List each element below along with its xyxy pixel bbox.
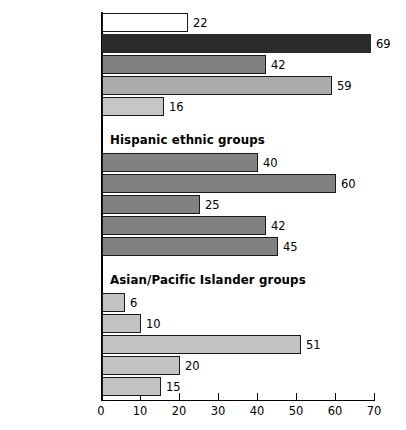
x-tick-label-10: 10 (125, 404, 155, 418)
bar-value-label: 60 (341, 178, 356, 190)
bar-black (102, 34, 371, 53)
bar-american-indian (102, 76, 332, 95)
x-tick-label-40: 40 (242, 404, 272, 418)
x-tick-60 (335, 393, 336, 401)
bar-value-label: 10 (146, 318, 161, 330)
bar-puerto-rican (102, 174, 336, 193)
bar-mexican (102, 153, 258, 172)
x-tick-label-60: 60 (320, 404, 350, 418)
x-tick-30 (218, 393, 219, 401)
bar-value-label: 16 (169, 101, 184, 113)
bar-value-label: 40 (263, 157, 278, 169)
bar-central-south-american (102, 216, 266, 235)
bar-white (102, 13, 188, 32)
bar-other (102, 377, 161, 396)
section-heading-hispanic: Hispanic ethnic groups (110, 133, 265, 147)
x-tick-label-30: 30 (203, 404, 233, 418)
bar-value-label: 69 (376, 38, 391, 50)
x-tick-50 (296, 393, 297, 401)
bar-value-label: 22 (193, 17, 208, 29)
bar-japanese (102, 314, 141, 333)
plot-area: 0 10 20 30 40 50 60 70 White 22 Black 69… (0, 0, 406, 430)
bar-filipino (102, 356, 180, 375)
bar-value-label: 15 (166, 381, 181, 393)
x-tick-label-0: 0 (86, 404, 116, 418)
x-tick-40 (257, 393, 258, 401)
bar-hawaiian (102, 335, 301, 354)
x-tick-label-50: 50 (281, 404, 311, 418)
bar-cuban (102, 195, 200, 214)
x-tick-label-70: 70 (359, 404, 389, 418)
bar-chart: 0 10 20 30 40 50 60 70 White 22 Black 69… (0, 0, 406, 430)
x-axis-line (101, 400, 375, 401)
bar-value-label: 20 (185, 360, 200, 372)
x-tick-20 (179, 393, 180, 401)
bar-asian-pacific-islander (102, 97, 164, 116)
x-tick-70 (374, 393, 375, 401)
bar-value-label: 45 (283, 241, 298, 253)
bar-value-label: 59 (337, 80, 352, 92)
bar-other-hispanic (102, 237, 278, 256)
bar-value-label: 6 (130, 297, 137, 309)
bar-chinese (102, 293, 125, 312)
bar-value-label: 42 (271, 220, 286, 232)
section-heading-asian: Asian/Pacific Islander groups (110, 273, 306, 287)
x-tick-label-20: 20 (164, 404, 194, 418)
bar-value-label: 25 (205, 199, 220, 211)
bar-value-label: 51 (306, 339, 321, 351)
bar-value-label: 42 (271, 59, 286, 71)
bar-hispanic (102, 55, 266, 74)
